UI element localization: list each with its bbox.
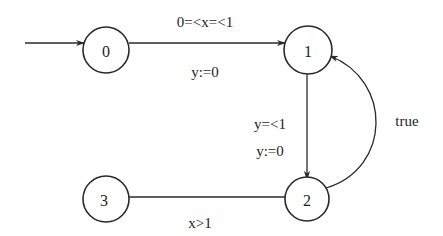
- state-0-label: 0: [102, 43, 110, 60]
- state-3-label: 3: [100, 192, 108, 209]
- state-2: 2: [285, 177, 329, 221]
- state-2-label: 2: [303, 192, 311, 209]
- edge-1-2-reset: y:=0: [256, 143, 284, 159]
- edge-2-1-guard: true: [395, 113, 419, 129]
- edge-1-2-guard: y=<1: [254, 116, 286, 132]
- edge-2-3-guard: x>1: [188, 215, 211, 231]
- edge-0-1-guard: 0=<x=<1: [177, 14, 233, 30]
- edge-2-to-1-curved: [326, 56, 376, 188]
- state-3: 3: [83, 176, 129, 222]
- state-1-label: 1: [304, 43, 312, 60]
- state-0: 0: [83, 27, 129, 73]
- automaton-diagram: 0 1 2 3 0=<x=<1 y:=0 y=<1 y:=0 true x>1: [0, 0, 443, 236]
- edge-0-1-reset: y:=0: [191, 64, 219, 80]
- state-1: 1: [284, 26, 332, 74]
